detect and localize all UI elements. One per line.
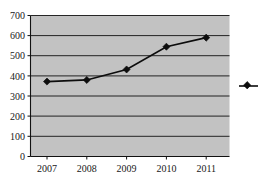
chart-canvas: 700 600 500 400 300 200 100 0 2007 2008 … (0, 0, 258, 181)
y-tick-label-300: 300 (10, 91, 25, 102)
y-tick-label-500: 500 (10, 50, 25, 61)
x-tick-label-2008: 2008 (77, 163, 97, 174)
legend-diamond-icon (244, 82, 251, 89)
x-tick-label-2011: 2011 (196, 163, 216, 174)
x-tick-label-2007: 2007 (37, 163, 57, 174)
line-chart: 700 600 500 400 300 200 100 0 2007 2008 … (0, 0, 258, 181)
y-tick-label-0: 0 (20, 151, 25, 162)
y-tick-label-100: 100 (10, 131, 25, 142)
y-tick-label-600: 600 (10, 30, 25, 41)
y-tick-label-200: 200 (10, 111, 25, 122)
legend (239, 82, 258, 89)
x-tick-label-2009: 2009 (117, 163, 137, 174)
x-tick-label-2010: 2010 (156, 163, 176, 174)
plot-area-background (31, 16, 230, 157)
y-tick-label-700: 700 (10, 10, 25, 21)
y-tick-label-400: 400 (10, 71, 25, 82)
